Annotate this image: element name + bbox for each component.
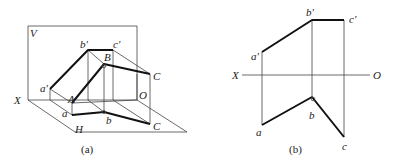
label-C-upper: C: [153, 70, 161, 82]
label-B: B: [104, 51, 111, 63]
h-projection-line: [262, 97, 344, 137]
figure-a: V X H O a' b' c' A B C a b C (a): [13, 26, 187, 156]
label-c: c: [342, 140, 347, 152]
label-a-prime: a': [251, 50, 260, 62]
label-v-plane: V: [30, 27, 38, 39]
label-c-prime: c': [349, 13, 357, 25]
projector: [113, 100, 150, 124]
label-c-prime: c': [113, 38, 121, 50]
projector: [72, 100, 137, 103]
label-a: a: [256, 126, 262, 138]
label-a-prime: a': [40, 82, 49, 94]
label-h-plane: H: [74, 123, 84, 135]
projection-diagram: V X H O a' b' c' A B C a b C (a) X O a' …: [0, 0, 397, 166]
label-o: O: [373, 69, 381, 81]
label-b-prime: b': [80, 38, 89, 50]
label-a: a: [62, 107, 68, 119]
figure-b: X O a' b' c' a b c (b): [231, 6, 381, 156]
label-b: b: [309, 109, 315, 121]
label-b-prime: b': [306, 6, 315, 18]
label-C-lower: C: [153, 120, 161, 132]
label-x: X: [231, 69, 240, 81]
label-o: O: [139, 89, 147, 101]
label-b: b: [106, 114, 112, 126]
caption-b: (b): [289, 143, 302, 156]
label-A: A: [67, 93, 75, 105]
label-x: X: [13, 94, 22, 106]
caption-a: (a): [81, 143, 94, 156]
projector: [88, 50, 104, 64]
v-projection-line: [262, 20, 344, 52]
